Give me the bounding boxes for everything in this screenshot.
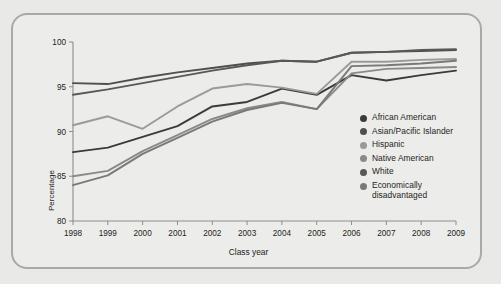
x-axis-tick-label: 2000: [134, 229, 153, 238]
chart-area: 8085909510019981999200020012002200320042…: [13, 15, 484, 271]
y-axis-tick-label: 90: [57, 128, 67, 137]
legend-swatch-icon: [360, 142, 367, 149]
x-axis-tick-label: 1998: [64, 229, 83, 238]
x-axis-tick-label: 2005: [308, 229, 327, 238]
legend-item-label: White: [372, 166, 394, 176]
x-axis-tick-label: 2004: [273, 229, 292, 238]
legend-item[interactable]: Asian/Pacific Islander: [360, 126, 453, 136]
x-axis-tick-label: 2009: [447, 229, 466, 238]
x-axis-tick-label: 2001: [168, 229, 187, 238]
x-axis-tick-label: 2002: [203, 229, 222, 238]
figure-panel: 8085909510019981999200020012002200320042…: [11, 13, 482, 269]
legend-swatch-icon: [360, 155, 367, 162]
x-axis-tick-label: 2003: [238, 229, 257, 238]
x-axis-title: Class year: [13, 247, 484, 257]
x-axis-tick-label: 2008: [412, 229, 431, 238]
legend-swatch-icon: [360, 183, 367, 190]
x-axis-tick-label: 1999: [99, 229, 118, 238]
legend-item[interactable]: Hispanic: [360, 139, 405, 149]
x-axis-tick-label: 2007: [377, 229, 396, 238]
legend-item[interactable]: Native American: [360, 153, 434, 163]
y-axis-tick-label: 85: [57, 172, 67, 181]
y-axis-tick-label: 95: [57, 83, 67, 92]
y-axis-tick-label: 100: [52, 38, 66, 47]
legend-item-label: Hispanic: [372, 139, 405, 149]
legend-swatch-icon: [360, 169, 367, 176]
line-chart-svg: 8085909510019981999200020012002200320042…: [13, 15, 484, 271]
legend-item[interactable]: Economically disadvantaged: [360, 180, 427, 200]
y-axis-tick-label: 80: [57, 217, 67, 226]
legend-swatch-icon: [360, 115, 367, 122]
legend-item-label: Asian/Pacific Islander: [372, 126, 453, 136]
y-axis-title: Percentage: [47, 170, 56, 211]
legend-swatch-icon: [360, 128, 367, 135]
legend-item-label: African American: [372, 112, 436, 122]
series-line: [73, 49, 456, 95]
legend-item[interactable]: White: [360, 166, 394, 176]
legend-item-label: Native American: [372, 153, 434, 163]
legend-item-label: Economically disadvantaged: [372, 180, 427, 200]
x-axis-tick-label: 2006: [342, 229, 361, 238]
legend-item[interactable]: African American: [360, 112, 436, 122]
